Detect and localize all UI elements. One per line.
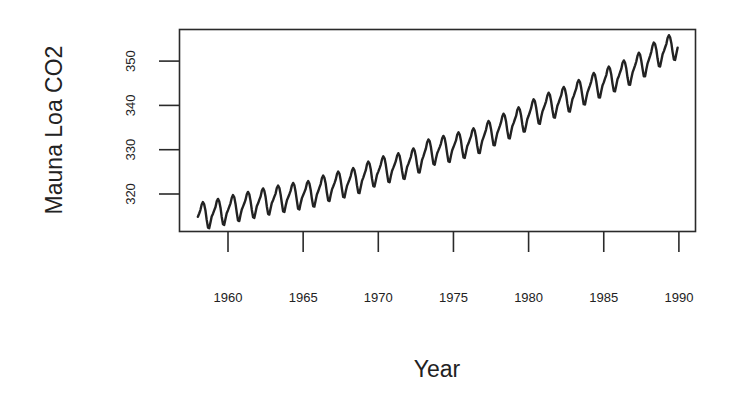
x-tick-label: 1990	[664, 290, 693, 305]
y-tick-label: 320	[123, 183, 138, 205]
y-axis: 320330340350	[123, 50, 180, 205]
x-tick-label: 1985	[589, 290, 618, 305]
x-tick-label: 1960	[214, 290, 243, 305]
x-tick-label: 1965	[289, 290, 318, 305]
x-tick-label: 1970	[364, 290, 393, 305]
co2-line-chart: 320330340350 196019651970197519801985199…	[0, 0, 737, 403]
y-axis-title: Mauna Loa CO2	[41, 46, 67, 215]
x-tick-label: 1975	[439, 290, 468, 305]
y-tick-label: 330	[123, 139, 138, 161]
x-axis-title: Year	[414, 356, 461, 382]
co2-series-line	[198, 35, 678, 228]
x-axis: 1960196519701975198019851990	[214, 232, 694, 306]
x-tick-label: 1980	[514, 290, 543, 305]
y-tick-label: 350	[123, 50, 138, 72]
y-tick-label: 340	[123, 95, 138, 117]
plot-frame	[180, 30, 696, 232]
